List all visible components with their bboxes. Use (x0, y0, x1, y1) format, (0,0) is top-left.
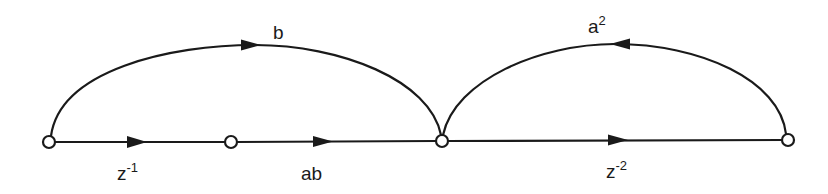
arrow-right-icon (127, 136, 147, 148)
node-1 (225, 136, 237, 148)
branch-z-inv1 (55, 136, 225, 148)
label-a2-base: a (588, 16, 599, 37)
branch-b (51, 40, 441, 137)
branch-ab (237, 136, 436, 147)
label-b: b (273, 23, 284, 42)
label-a2-sup: 2 (599, 13, 606, 28)
label-z-inv2-sup: -2 (616, 158, 628, 173)
branch-z-inv2 (448, 135, 782, 146)
label-z-inv1: z-1 (117, 164, 138, 183)
label-z-inv2: z-2 (606, 162, 627, 181)
node-2 (436, 135, 448, 147)
label-ab-text: ab (301, 163, 322, 184)
label-z-inv1-base: z (117, 163, 127, 184)
arrow-right-icon (241, 40, 261, 51)
arrow-right-icon (313, 136, 333, 147)
label-z-inv2-base: z (606, 161, 616, 182)
label-z-inv1-sup: -1 (127, 160, 139, 175)
label-b-text: b (273, 22, 284, 43)
node-3 (782, 134, 794, 146)
arrow-left-icon (610, 39, 630, 50)
branch-a2 (443, 39, 786, 136)
label-a-squared: a2 (588, 17, 606, 36)
node-0 (43, 136, 55, 148)
label-ab: ab (301, 164, 322, 183)
arrow-right-icon (608, 135, 628, 146)
